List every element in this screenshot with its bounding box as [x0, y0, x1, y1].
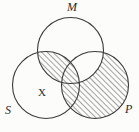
- circle-label-m: M: [67, 1, 77, 13]
- region-mark-x: X: [38, 87, 46, 98]
- circle-label-s: S: [5, 104, 11, 116]
- circle-label-p: P: [125, 103, 132, 115]
- venn-diagram-figure: M S P X: [0, 0, 139, 132]
- venn-diagram-canvas: [0, 0, 139, 132]
- p-circle-shading: [0, 0, 139, 132]
